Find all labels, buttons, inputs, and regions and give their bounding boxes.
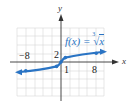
y-axis-label: y	[58, 4, 62, 13]
tick-label-neg8: −8	[19, 51, 30, 61]
radical-index: 3	[92, 31, 95, 37]
tick-label-x1: 1	[64, 65, 69, 75]
x-axis-arrow-icon	[112, 60, 119, 65]
x-axis-label: x	[122, 57, 126, 66]
y-axis-arrow-icon	[59, 14, 64, 21]
curve-left-arrow-icon	[15, 69, 22, 75]
cube-root-radical: 3√x	[93, 36, 104, 47]
function-label: f(x) = 3√x	[65, 36, 104, 47]
function-label-prefix: f(x) =	[65, 35, 93, 47]
radicand: x	[99, 34, 104, 47]
tick-label-y2: 2	[54, 50, 59, 60]
tick-label-x8: 8	[92, 65, 97, 75]
